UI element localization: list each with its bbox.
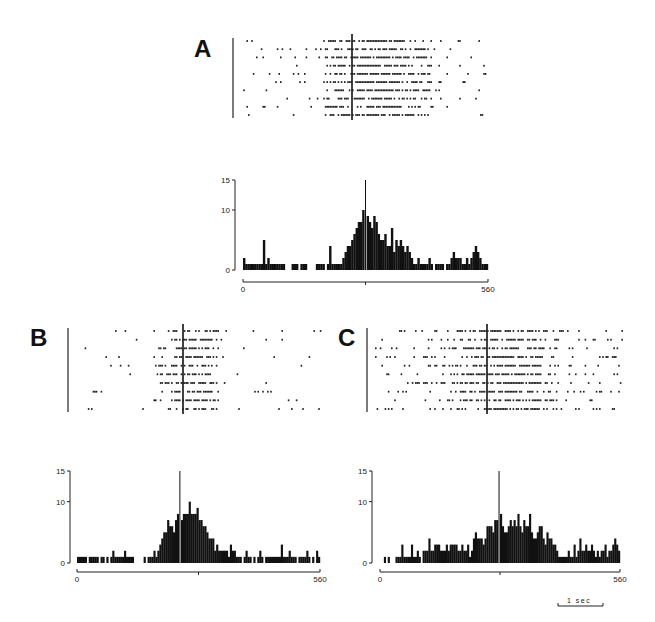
x-tick-label: 560 — [481, 285, 495, 294]
x-tick-label: 0 — [75, 575, 80, 584]
histogram-a: 010150560 — [221, 176, 495, 294]
y-tick-label: 0 — [226, 266, 231, 275]
y-tick-label: 10 — [358, 498, 367, 507]
panel-label-b: B — [30, 324, 47, 351]
x-tick-label: 0 — [378, 575, 383, 584]
figure-canvas: A B C 010150560 010150560 010150560 1 se… — [0, 0, 655, 622]
scale-bar-label: 1 sec — [567, 597, 591, 604]
histogram-b: 010150560 — [56, 467, 327, 584]
x-tick-label: 0 — [241, 285, 246, 294]
y-tick-label: 15 — [56, 467, 65, 476]
x-tick-label: 560 — [613, 575, 627, 584]
raster-plot-b — [68, 324, 321, 414]
y-tick-label: 15 — [358, 467, 367, 476]
y-tick-label: 10 — [221, 206, 230, 215]
y-tick-label: 10 — [56, 498, 65, 507]
x-tick-label: 560 — [313, 575, 327, 584]
panel-label-c: C — [338, 324, 355, 351]
raster-plot-c — [367, 324, 623, 414]
time-scale-bar: 1 sec — [558, 597, 603, 606]
y-tick-label: 0 — [363, 559, 368, 568]
panel-label-a: A — [194, 35, 211, 62]
histogram-c: 010150560 — [358, 467, 627, 584]
y-tick-label: 15 — [221, 176, 230, 185]
y-tick-label: 0 — [61, 559, 66, 568]
raster-plot-a — [233, 34, 486, 120]
